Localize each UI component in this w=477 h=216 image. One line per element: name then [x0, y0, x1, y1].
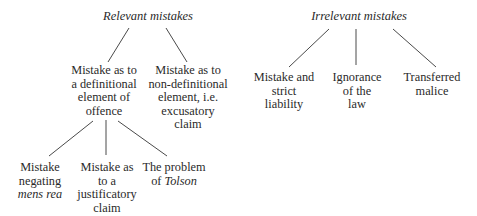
node-text-line: Transferred — [404, 71, 461, 85]
edge-irrelevant-to-strict-liability — [289, 29, 329, 67]
tolson-node: The problem of Tolson — [142, 161, 205, 188]
node-text-line: a definitional — [71, 78, 137, 92]
node-text-line: negating — [18, 175, 62, 189]
node-text-line: non-definitional — [148, 78, 227, 92]
node-text-line: Mistake and — [254, 71, 314, 85]
justificatory-claim-node: Mistake as to a justificatory claim — [77, 161, 136, 215]
node-text-line: The problem — [142, 161, 205, 175]
node-text-line: Mistake as to — [71, 64, 137, 78]
node-text-line: of Tolson — [142, 175, 205, 189]
node-text-line: element, i.e. — [148, 91, 227, 105]
tolson-prefix: of — [151, 174, 164, 188]
non-definitional-element-node: Mistake as to non-definitional element, … — [148, 64, 227, 132]
node-text-line: Mistake as to — [148, 64, 227, 78]
definitional-element-node: Mistake as to a definitional element of … — [71, 64, 137, 118]
edge-definitional-to-mens-rea — [49, 121, 93, 156]
node-text-line: element of — [71, 91, 137, 105]
node-text-line: Mistake as — [77, 161, 136, 175]
node-text-line: claim — [77, 202, 136, 216]
ignorance-of-law-node: Ignorance of the law — [332, 71, 381, 112]
tolson-case-name: Tolson — [164, 174, 196, 188]
node-text-line: malice — [404, 85, 461, 99]
transferred-malice-node: Transferred malice — [404, 71, 461, 98]
edge-relevant-to-nondefinitional — [166, 28, 187, 62]
relevant-mistakes-title: Relevant mistakes — [103, 10, 193, 24]
strict-liability-node: Mistake and strict liability — [254, 71, 314, 112]
node-text-line: claim — [148, 118, 227, 132]
edge-relevant-to-definitional — [108, 28, 129, 62]
node-text-line: liability — [254, 98, 314, 112]
node-text-line: justificatory — [77, 188, 136, 202]
irrelevant-mistakes-node: Irrelevant mistakes — [311, 10, 407, 24]
relevant-mistakes-node: Relevant mistakes — [103, 10, 193, 24]
mistake-classification-diagram: Relevant mistakes Mistake as to a defini… — [0, 0, 477, 216]
node-text-line: of the — [332, 85, 381, 99]
node-text-line: Mistake — [18, 161, 62, 175]
irrelevant-mistakes-title: Irrelevant mistakes — [311, 10, 407, 24]
node-text-line: law — [332, 98, 381, 112]
node-text-line: Ignorance — [332, 71, 381, 85]
node-text-line-italic: mens rea — [18, 188, 62, 202]
node-text-line: excusatory — [148, 105, 227, 119]
node-text-line: to a — [77, 175, 136, 189]
edge-irrelevant-to-transferred — [393, 29, 436, 67]
mens-rea-node: Mistake negating mens rea — [18, 161, 62, 202]
node-text-line: strict — [254, 85, 314, 99]
node-text-line: offence — [71, 105, 137, 119]
